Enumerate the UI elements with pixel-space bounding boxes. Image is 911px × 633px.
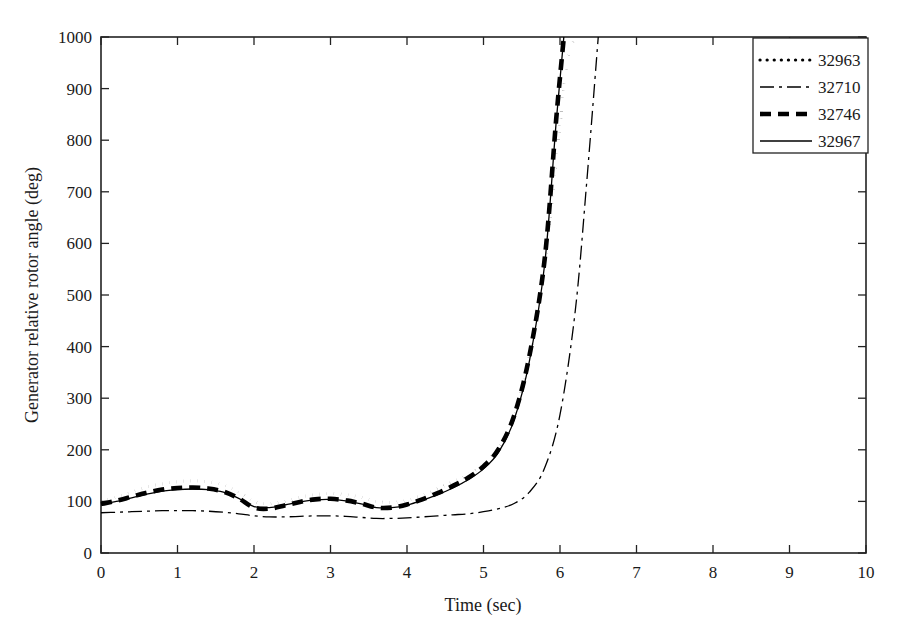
y-tick-label: 800 [67, 131, 93, 150]
series-line-32967 [101, 37, 564, 508]
y-tick-label: 400 [67, 338, 93, 357]
figure-container: 012345678910 010020030040050060070080090… [0, 0, 911, 633]
series-line-32963 [101, 37, 575, 503]
legend-label-32710: 32710 [818, 78, 861, 97]
x-tick-label: 4 [403, 563, 412, 582]
y-axis-title: Generator relative rotor angle (deg) [22, 167, 43, 423]
y-tick-label: 1000 [58, 28, 92, 47]
x-tick-label: 3 [326, 563, 335, 582]
series-line-32710 [101, 37, 598, 519]
chart-legend: 32963327103274632967 [753, 38, 868, 153]
y-tick-label: 200 [67, 441, 93, 460]
series-group [101, 37, 598, 519]
x-tick-label: 2 [250, 563, 259, 582]
chart-plot: 012345678910 010020030040050060070080090… [0, 0, 911, 633]
x-tick-label: 0 [97, 563, 106, 582]
y-axis-tick-labels: 01002003004005006007008009001000 [58, 28, 92, 563]
y-tick-label: 500 [67, 286, 93, 305]
y-tick-label: 300 [67, 389, 93, 408]
x-tick-label: 6 [556, 563, 565, 582]
legend-label-32963: 32963 [818, 51, 861, 70]
x-tick-label: 5 [479, 563, 488, 582]
y-tick-label: 600 [67, 234, 93, 253]
y-tick-label: 900 [67, 80, 93, 99]
y-tick-label: 0 [84, 544, 93, 563]
x-tick-label: 8 [709, 563, 718, 582]
legend-label-32746: 32746 [818, 105, 861, 124]
y-tick-label: 100 [67, 492, 93, 511]
series-line-32746 [101, 37, 564, 509]
axes-frame [101, 37, 866, 553]
x-tick-label: 1 [173, 563, 182, 582]
legend-label-32967: 32967 [818, 132, 861, 151]
x-axis-ticks [101, 37, 866, 553]
x-axis-title: Time (sec) [445, 595, 522, 616]
x-tick-label: 9 [785, 563, 794, 582]
x-tick-label: 10 [858, 563, 875, 582]
y-axis-ticks [101, 37, 866, 553]
x-tick-label: 7 [632, 563, 641, 582]
x-axis-tick-labels: 012345678910 [97, 563, 875, 582]
y-tick-label: 700 [67, 183, 93, 202]
